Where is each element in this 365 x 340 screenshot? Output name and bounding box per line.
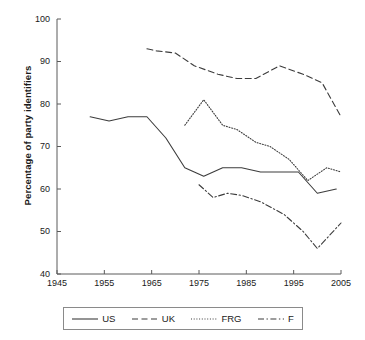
chart-figure: Percentage of party identifiers 40506070… — [0, 0, 365, 340]
legend-item-uk[interactable]: UK — [132, 314, 175, 324]
chart-legend: USUKFRGF — [63, 307, 303, 330]
legend-line-swatch-uk — [132, 315, 158, 323]
legend-label: US — [102, 314, 115, 324]
legend-label: FRG — [221, 314, 241, 324]
series-line-f — [199, 185, 341, 249]
series-line-uk — [147, 49, 341, 117]
series-line-frg — [185, 100, 341, 181]
legend-item-frg[interactable]: FRG — [191, 314, 241, 324]
legend-item-f[interactable]: F — [258, 314, 294, 324]
legend-item-us[interactable]: US — [72, 314, 115, 324]
legend-label: UK — [162, 314, 175, 324]
legend-line-swatch-f — [258, 315, 284, 323]
legend-line-swatch-frg — [191, 315, 217, 323]
series-line-us — [90, 117, 336, 194]
plot-area — [0, 0, 365, 340]
legend-label: F — [288, 314, 294, 324]
legend-line-swatch-us — [72, 315, 98, 323]
